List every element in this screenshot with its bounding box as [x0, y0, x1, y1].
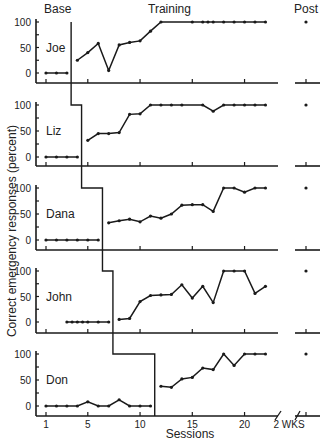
training-point — [180, 103, 183, 106]
baseline-point — [81, 320, 84, 323]
training-point — [138, 300, 141, 303]
training-point — [201, 20, 204, 23]
multiple-baseline-chart: 050100Joe050100Liz050100Dana050100John05… — [0, 0, 326, 441]
baseline-point — [138, 404, 141, 407]
training-point — [233, 20, 236, 23]
baseline-point — [44, 71, 47, 74]
training-point — [212, 301, 215, 304]
training-point — [201, 366, 204, 369]
phase-change-line — [71, 22, 155, 416]
participant-label: Liz — [46, 124, 61, 138]
y-tick-label: 100 — [14, 17, 31, 28]
x-tick-label: 20 — [239, 419, 251, 430]
training-point — [170, 212, 173, 215]
training-point — [222, 186, 225, 189]
baseline-point — [86, 320, 89, 323]
y-tick-label: 50 — [20, 126, 32, 137]
training-point — [191, 203, 194, 206]
x-tick-label: 10 — [134, 419, 146, 430]
training-point — [191, 376, 194, 379]
training-point — [201, 103, 204, 106]
post-point — [304, 20, 307, 23]
training-point — [264, 20, 267, 23]
y-tick-label: 50 — [20, 292, 32, 303]
y-tick-label: 100 — [14, 349, 31, 360]
x-tick-label: 1 — [43, 419, 49, 430]
training-point — [253, 292, 256, 295]
training-point — [264, 186, 267, 189]
training-point — [97, 132, 100, 135]
training-point — [253, 352, 256, 355]
training-point — [180, 283, 183, 286]
training-line — [88, 105, 266, 140]
training-point — [243, 20, 246, 23]
training-point — [149, 214, 152, 217]
training-point — [138, 39, 141, 42]
baseline-point — [65, 155, 68, 158]
training-point — [107, 221, 110, 224]
training-point — [86, 139, 89, 142]
baseline-point — [97, 404, 100, 407]
baseline-point — [55, 71, 58, 74]
training-point — [149, 294, 152, 297]
baseline-point — [97, 320, 100, 323]
y-tick-label: 50 — [20, 375, 32, 386]
post-tick-label: 2 WKS — [273, 419, 304, 430]
participant-label: Joe — [46, 41, 66, 55]
baseline-point — [44, 238, 47, 241]
y-tick-label: 50 — [20, 209, 32, 220]
baseline-point — [76, 155, 79, 158]
training-point — [253, 103, 256, 106]
training-point — [180, 204, 183, 207]
y-axis-label: Correct emergency responses (percent) — [5, 121, 19, 341]
participant-label: Dana — [46, 207, 75, 221]
training-point — [212, 210, 215, 213]
training-point — [206, 20, 209, 23]
baseline-point — [86, 400, 89, 403]
training-point — [222, 352, 225, 355]
training-point — [191, 20, 194, 23]
training-point — [212, 20, 215, 23]
training-point — [170, 293, 173, 296]
baseline-point — [55, 155, 58, 158]
training-point — [107, 132, 110, 135]
y-tick-label: 0 — [25, 317, 31, 328]
training-point — [128, 41, 131, 44]
baseline-point — [55, 238, 58, 241]
post-point — [304, 352, 307, 355]
baseline-point — [128, 404, 131, 407]
training-point — [107, 69, 110, 72]
post-point — [304, 103, 307, 106]
training-point — [233, 364, 236, 367]
training-point — [222, 269, 225, 272]
training-point — [118, 131, 121, 134]
training-point — [170, 386, 173, 389]
x-axis-label: Sessions — [150, 427, 230, 441]
post-point — [304, 186, 307, 189]
training-point — [149, 103, 152, 106]
training-point — [76, 59, 79, 62]
participant-label: Don — [46, 373, 68, 387]
training-point — [149, 30, 152, 33]
training-point — [212, 110, 215, 113]
training-point — [159, 385, 162, 388]
x-tick-label: 5 — [85, 419, 91, 430]
training-point — [191, 296, 194, 299]
training-point — [159, 217, 162, 220]
training-point — [212, 368, 215, 371]
training-point — [243, 269, 246, 272]
training-point — [170, 103, 173, 106]
training-point — [264, 352, 267, 355]
training-point — [233, 186, 236, 189]
y-tick-label: 100 — [14, 100, 31, 111]
training-point — [159, 103, 162, 106]
training-point — [128, 218, 131, 221]
baseline-point — [44, 404, 47, 407]
training-line — [109, 188, 266, 223]
training-point — [264, 285, 267, 288]
training-point — [97, 42, 100, 45]
post-point — [304, 269, 307, 272]
training-point — [222, 20, 225, 23]
training-point — [138, 112, 141, 115]
y-tick-label: 50 — [20, 43, 32, 54]
